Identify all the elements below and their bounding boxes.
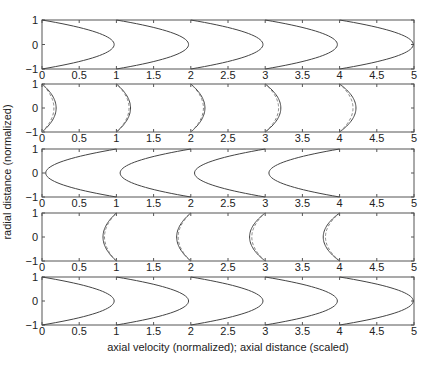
x-tick-label: 2.5 xyxy=(220,197,235,209)
y-tick-label: 1 xyxy=(32,271,38,283)
x-tick-label: 1 xyxy=(113,261,119,273)
velocity-profile-solid xyxy=(42,277,114,325)
x-tick-label: 1 xyxy=(113,325,119,337)
x-tick-label: 1.5 xyxy=(146,197,161,209)
velocity-profile-dashed xyxy=(105,213,117,261)
x-tick-label: 2 xyxy=(188,325,194,337)
x-tick-label: 5 xyxy=(411,325,417,337)
velocity-profile-dashed xyxy=(252,213,265,261)
y-axis-label: radial distance (normalized) xyxy=(1,104,13,239)
velocity-profile-dashed xyxy=(340,84,353,132)
x-tick-label: 0.5 xyxy=(72,132,87,144)
velocity-profile-solid xyxy=(340,84,356,132)
x-tick-label: 3.5 xyxy=(295,325,310,337)
x-tick-label: 1.5 xyxy=(146,69,161,81)
velocity-profile-solid xyxy=(250,213,266,261)
x-tick-label: 2 xyxy=(188,69,194,81)
y-tick-label: −1 xyxy=(25,63,38,75)
velocity-profile-solid xyxy=(265,84,281,132)
x-tick-label: 2.5 xyxy=(220,69,235,81)
velocity-profile-dashed xyxy=(116,84,129,132)
velocity-profile-dashed xyxy=(178,213,191,261)
x-tick-label: 3.5 xyxy=(295,197,310,209)
x-tick-label: 0.5 xyxy=(72,69,87,81)
velocity-profile-figure: 00.511.522.533.544.55−10100.511.522.533.… xyxy=(0,0,432,365)
x-tick-label: 4 xyxy=(337,261,343,273)
x-tick-label: 4 xyxy=(337,69,343,81)
x-tick-label: 4 xyxy=(337,132,343,144)
x-tick-label: 2 xyxy=(188,132,194,144)
panel-4: 00.511.522.533.544.55−101 xyxy=(25,207,417,273)
x-tick-label: 1.5 xyxy=(146,132,161,144)
velocity-profile-solid xyxy=(269,149,340,197)
plot-frame xyxy=(42,213,414,261)
y-tick-label: 0 xyxy=(32,231,38,243)
x-tick-label: 4.5 xyxy=(369,197,384,209)
x-tick-label: 1 xyxy=(113,197,119,209)
x-tick-label: 0.5 xyxy=(72,325,87,337)
panel-2: 00.511.522.533.544.55−101 xyxy=(25,78,417,144)
velocity-profile-solid xyxy=(195,149,266,197)
panel-1: 00.511.522.533.544.55−101 xyxy=(25,14,417,81)
velocity-profile-solid xyxy=(340,20,414,69)
x-tick-label: 3.5 xyxy=(295,69,310,81)
x-tick-label: 3.5 xyxy=(295,132,310,144)
x-axis-label: axial velocity (normalized); axial dista… xyxy=(107,341,348,353)
velocity-profile-dashed xyxy=(191,84,204,132)
velocity-profile-dashed xyxy=(265,84,278,132)
y-tick-label: 1 xyxy=(32,78,38,90)
velocity-profile-solid xyxy=(191,84,205,132)
x-tick-label: 5 xyxy=(411,132,417,144)
x-tick-label: 2.5 xyxy=(220,325,235,337)
y-tick-label: −1 xyxy=(25,319,38,331)
x-tick-label: 4.5 xyxy=(369,132,384,144)
x-tick-label: 0 xyxy=(39,325,45,337)
x-tick-label: 0.5 xyxy=(72,197,87,209)
y-tick-label: −1 xyxy=(25,191,38,203)
x-tick-label: 2 xyxy=(188,261,194,273)
y-tick-label: 1 xyxy=(32,143,38,155)
x-tick-label: 0 xyxy=(39,132,45,144)
x-tick-label: 0 xyxy=(39,69,45,81)
velocity-profile-solid xyxy=(46,149,117,197)
velocity-profile-solid xyxy=(42,20,114,69)
y-tick-label: 1 xyxy=(32,14,38,26)
x-tick-label: 5 xyxy=(411,261,417,273)
y-tick-label: 0 xyxy=(32,102,38,114)
x-tick-label: 4.5 xyxy=(369,325,384,337)
x-tick-label: 4.5 xyxy=(369,69,384,81)
x-tick-label: 3.5 xyxy=(295,261,310,273)
x-tick-label: 3 xyxy=(262,132,268,144)
velocity-profile-solid xyxy=(340,277,414,325)
x-tick-label: 1 xyxy=(113,69,119,81)
panels-group: 00.511.522.533.544.55−10100.511.522.533.… xyxy=(25,14,417,337)
x-tick-label: 3 xyxy=(262,261,268,273)
x-tick-label: 2.5 xyxy=(220,261,235,273)
x-tick-label: 0 xyxy=(39,261,45,273)
x-tick-label: 3 xyxy=(262,69,268,81)
x-tick-label: 2.5 xyxy=(220,132,235,144)
y-tick-label: 0 xyxy=(32,295,38,307)
x-tick-label: 0.5 xyxy=(72,261,87,273)
y-tick-label: 0 xyxy=(32,167,38,179)
x-tick-label: 1.5 xyxy=(146,325,161,337)
velocity-profile-solid xyxy=(103,213,116,261)
velocity-profile-solid xyxy=(116,20,188,69)
plot-frame xyxy=(42,84,414,132)
panel-5: 00.511.522.533.544.55−101 xyxy=(25,271,417,337)
x-tick-label: 0 xyxy=(39,197,45,209)
x-tick-label: 4 xyxy=(337,325,343,337)
x-tick-label: 4.5 xyxy=(369,261,384,273)
x-tick-label: 3 xyxy=(262,325,268,337)
velocity-profile-solid xyxy=(265,277,337,325)
panel-3: 00.511.522.533.544.55−101 xyxy=(25,143,417,209)
y-tick-label: −1 xyxy=(25,126,38,138)
x-tick-label: 5 xyxy=(411,197,417,209)
x-tick-label: 1 xyxy=(113,132,119,144)
x-tick-label: 1.5 xyxy=(146,261,161,273)
y-tick-label: 1 xyxy=(32,207,38,219)
y-tick-label: 0 xyxy=(32,39,38,51)
x-tick-label: 4 xyxy=(337,197,343,209)
x-tick-label: 3 xyxy=(262,197,268,209)
velocity-profile-solid xyxy=(177,213,191,261)
